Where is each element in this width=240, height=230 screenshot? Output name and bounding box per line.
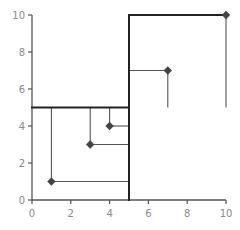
y-tick-label: 4 [19,121,25,132]
axes: 02468100246810 [12,10,232,220]
y-tick-label: 0 [19,195,25,206]
x-tick-label: 6 [145,208,151,219]
data-markers [47,11,230,186]
x-tick-label: 0 [29,208,35,219]
x-tick-label: 4 [106,208,112,219]
x-tick-label: 8 [184,208,190,219]
y-tick-label: 8 [19,47,25,58]
quadtree-diagram: 02468100246810 [0,0,240,230]
diamond-marker-icon [47,177,55,185]
diamond-marker-icon [222,11,230,19]
x-tick-label: 10 [220,208,233,219]
x-tick-label: 2 [68,208,74,219]
y-tick-label: 6 [19,84,25,95]
diamond-marker-icon [164,66,172,74]
diamond-marker-icon [86,140,94,148]
y-tick-label: 10 [12,10,25,21]
diamond-marker-icon [105,122,113,130]
connector-lines [51,15,226,182]
quadrant-divider-lines [32,15,226,200]
y-tick-label: 2 [19,158,25,169]
